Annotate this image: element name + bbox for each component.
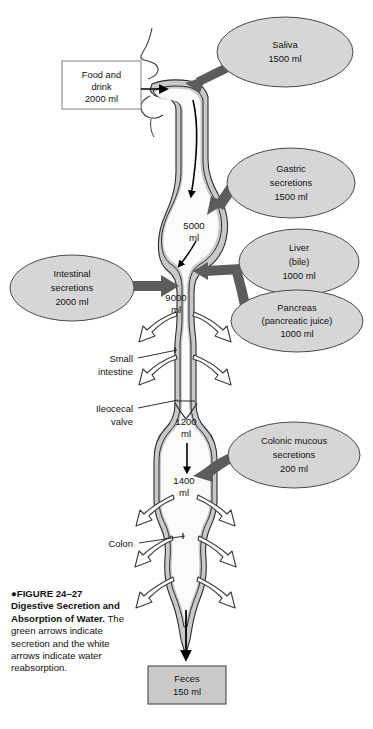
volume-duodenum-unit: ml	[171, 304, 181, 315]
absorption-arrow-left	[139, 355, 177, 385]
leader-line-ileocecal-valve	[138, 400, 178, 408]
label-small-intestine-line-2: intestine	[98, 366, 133, 377]
source-pancreas-line-2: (pancreatic juice)	[262, 316, 333, 326]
input-box-line-1: Food and	[82, 70, 121, 80]
source-pancreas-line-1: Pancreas	[277, 303, 317, 313]
volume-colon-unit: ml	[179, 487, 189, 498]
absorption-arrow-right	[193, 312, 231, 342]
source-colonic-mucous-secretions[interactable]: Colonic mucous secretions 200 ml	[228, 422, 360, 488]
source-liver-line-2: (bile)	[289, 257, 310, 267]
source-intestinal-line-3: 2000 ml	[55, 297, 88, 307]
source-intestinal-line-2: secretions	[51, 283, 94, 293]
secretion-arrow-intestinal	[132, 281, 163, 291]
volume-stomach-value: 5000	[183, 220, 204, 231]
label-small-intestine-line-1: Small	[110, 353, 133, 364]
source-pancreas-line-3: 1000 ml	[280, 329, 313, 339]
figure-caption: ●FIGURE 24–27 Digestive Secretion and Ab…	[11, 588, 136, 675]
source-colonic-line-2: secretions	[273, 450, 316, 460]
output-box-feces[interactable]: Feces 150 ml	[148, 666, 226, 704]
label-ileocecal-valve-line-1: Ileocecal	[96, 403, 133, 414]
output-box-line-1: Feces	[174, 674, 200, 684]
source-saliva-line-2: 1500 ml	[268, 54, 301, 64]
label-colon-text: Colon	[109, 538, 134, 549]
source-colonic-line-3: 200 ml	[280, 464, 308, 474]
volume-ileocecal-unit: ml	[181, 428, 191, 439]
source-saliva[interactable]: Saliva 1500 ml	[217, 17, 353, 87]
figure-digestive-water-balance: Saliva 1500 ml Gastric secretions 1500 m…	[0, 0, 373, 729]
label-ileocecal-valve: Ileocecal valve	[96, 400, 178, 427]
input-box-line-3: 2000 ml	[85, 94, 118, 104]
source-intestinal-line-1: Intestinal	[53, 269, 90, 279]
absorption-arrow-right	[193, 355, 231, 385]
source-gastric-line-1: Gastric	[276, 164, 306, 174]
volume-duodenum-value: 9000	[165, 292, 186, 303]
source-liver-bile[interactable]: Liver (bile) 1000 ml	[239, 229, 359, 295]
source-saliva-line-1: Saliva	[272, 40, 298, 50]
source-liver-line-1: Liver	[289, 243, 309, 253]
source-gastric-line-2: secretions	[270, 178, 313, 188]
source-liver-line-3: 1000 ml	[282, 271, 315, 281]
source-intestinal-secretions[interactable]: Intestinal secretions 2000 ml	[10, 255, 134, 321]
source-colonic-line-1: Colonic mucous	[261, 436, 327, 446]
volume-stomach-unit: ml	[189, 232, 199, 243]
volume-colon-value: 1400	[173, 475, 194, 486]
label-ileocecal-valve-line-2: valve	[111, 416, 133, 427]
absorption-arrow-left	[139, 312, 177, 342]
output-box-line-2: 150 ml	[173, 687, 201, 697]
volume-ileocecal-value: 1200	[175, 416, 196, 427]
source-gastric-secretions[interactable]: Gastric secretions 1500 ml	[227, 148, 355, 218]
source-gastric-line-3: 1500 ml	[274, 192, 307, 202]
caption-figure-title: Digestive Secretion and Absorption of Wa…	[11, 600, 120, 623]
caption-figure-number: FIGURE 24–27	[17, 588, 83, 599]
input-box-line-2: drink	[91, 82, 112, 92]
input-box-food-and-drink[interactable]: Food and drink 2000 ml	[62, 61, 165, 109]
source-pancreas[interactable]: Pancreas (pancreatic juice) 1000 ml	[231, 290, 363, 352]
